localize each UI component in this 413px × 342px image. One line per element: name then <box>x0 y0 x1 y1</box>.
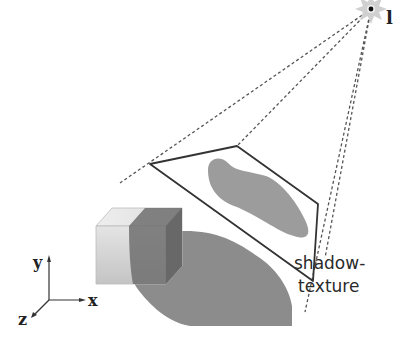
ray-to-corner-d <box>325 9 371 258</box>
z-axis <box>33 300 49 316</box>
shadow-mapping-diagram: l shadow- texture y x z <box>0 0 413 342</box>
light-label: l <box>386 7 393 28</box>
texture-label-line2: texture <box>298 276 359 296</box>
ray-to-corner-b <box>237 9 371 146</box>
ray-to-corner-a <box>120 9 371 183</box>
light-point <box>369 7 374 12</box>
x-axis-arrow-icon <box>79 298 86 302</box>
z-axis-label: z <box>18 310 27 329</box>
y-axis-label: y <box>32 253 43 272</box>
cube <box>96 208 182 284</box>
light-source: l <box>355 0 393 28</box>
y-axis-arrow-icon <box>47 255 51 262</box>
x-axis-label: x <box>88 291 98 310</box>
texture-label-line1: shadow- <box>294 253 365 273</box>
shadow-texture-blob <box>208 159 308 238</box>
